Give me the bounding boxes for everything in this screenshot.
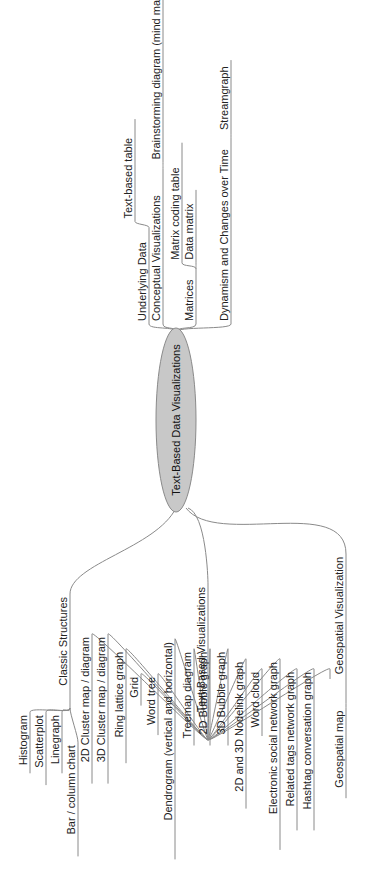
node-related-tags-network-graph[interactable]: Related tags network graph [284,669,297,830]
child-connector [62,708,70,712]
node-label: Treemap diagram [181,652,193,738]
branch-underlying-data[interactable]: Underlying Data [136,228,149,325]
node-linegraph[interactable]: Linegraph [49,712,62,773]
node-electronic-social-network-graph[interactable]: Electronic social network graph [267,659,280,850]
node-brainstorming-diagram-mind-map-concept-map[interactable]: Brainstorming diagram (mind map / concep… [150,0,163,163]
branch-matrices[interactable]: Matrices [183,269,196,324]
center-node-label: Text-Based Data Visualizations [170,344,182,496]
node-label: Scatterplot [33,715,45,768]
branch-classic-structures[interactable]: Classic Structures [57,594,70,708]
node-label: Classic Structures [57,597,69,686]
node-geospatial-map[interactable]: Geospatial map [333,708,346,799]
node-scatterplot[interactable]: Scatterplot [33,712,46,785]
center-node[interactable]: Text-Based Data Visualizations [156,328,196,512]
node-2d-cluster-map-diagram[interactable]: 2D Cluster map / diagram [79,634,92,784]
node-label: Geospatial map [333,711,345,788]
mind-map-rotated-group: Underlying DataText-based tableConceptua… [17,0,346,859]
node-histogram[interactable]: Histogram [17,712,30,773]
node-label: Geospatial Visualization [333,557,345,674]
node-streamgraph[interactable]: Streamgraph [218,60,231,133]
node-dendrogram-vertical-and-horizontal[interactable]: Dendrogram (vertical and horizontal) [162,639,175,859]
child-connector [135,222,149,228]
node-bar-column-chart[interactable]: Bar / column chart [65,742,78,856]
branch-conceptual-visualizations[interactable]: Conceptual Visualizations [150,169,163,325]
node-matrix-coding-table[interactable]: Matrix coding table [169,143,182,263]
node-label: Brainstorming diagram (mind map / concep… [150,0,162,160]
node-label: Matrix coding table [169,167,181,259]
node-2d-bubble-graph[interactable]: 2D Bubble graph [197,649,210,746]
node-label: Related tags network graph [284,672,296,807]
child-connector [70,708,78,742]
node-label: Data matrix [183,203,195,260]
node-label: Electronic social network graph [267,662,279,814]
branch-connector [70,508,176,594]
node-hashtag-conversation-graph[interactable]: Hashtag conversation graph [301,669,314,830]
node-word-tree[interactable]: Word tree [145,674,158,735]
branch-connector [188,508,208,584]
node-label: 2D Bubble graph [197,652,209,735]
node-grid[interactable]: Grid [128,674,141,706]
node-label: Text-based table [122,138,134,219]
node-label: Grid [128,677,140,698]
node-label: Dendrogram (vertical and horizontal) [162,642,174,821]
node-label: Dynamism and Changes over Time [218,149,230,321]
child-connector [182,263,196,269]
node-label: Matrices [183,279,195,321]
node-treemap-diagram[interactable]: Treemap diagram [181,649,194,746]
node-text-based-table[interactable]: Text-based table [122,119,135,221]
branch-connector [186,508,346,554]
node-label: Conceptual Visualizations [150,195,162,321]
node-3d-cluster-map-diagram[interactable]: 3D Cluster map / diagram [95,634,108,784]
node-label: 3D Cluster map / diagram [95,637,107,762]
node-label: Streamgraph [218,66,230,130]
node-label: 2D Cluster map / diagram [79,637,91,762]
node-label: 3D Bubble graph [215,652,227,735]
branch-geospatial-visualization[interactable]: Geospatial Visualization [333,554,346,704]
node-label: Word tree [145,677,157,725]
node-label: Bar / column chart [65,745,77,834]
branch-dynamism-and-changes-over-time[interactable]: Dynamism and Changes over Time [218,139,231,324]
node-label: Linegraph [49,715,61,764]
node-word-cloud[interactable]: Word cloud [249,669,262,736]
node-label: 2D and 3D Nodelink graph [233,662,245,792]
node-ring-lattice-graph[interactable]: Ring lattice graph [113,649,126,763]
node-2d-and-3d-nodelink-graph[interactable]: 2D and 3D Nodelink graph [233,659,246,809]
node-label: Ring lattice graph [113,652,125,738]
mind-map-canvas: Underlying DataText-based tableConceptua… [0,0,365,884]
node-3d-bubble-graph[interactable]: 3D Bubble graph [215,649,228,746]
node-label: Histogram [17,715,29,765]
node-label: Hashtag conversation graph [301,672,313,810]
node-data-matrix[interactable]: Data matrix [183,190,196,263]
node-label: Underlying Data [136,241,148,321]
node-label: Word cloud [249,672,261,727]
